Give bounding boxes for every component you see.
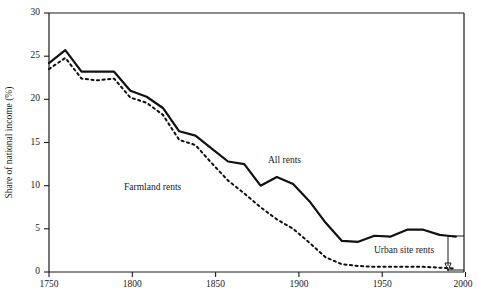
urban-site-rents-label: Urban site rents — [374, 245, 434, 255]
chart-figure: 0 5 10 15 20 25 30 1750 1800 1850 1900 1… — [0, 0, 478, 301]
y-tick-marks — [44, 13, 49, 272]
y-axis-title: Share of national income (%) — [4, 87, 15, 199]
x-tick-label-2000: 2000 — [454, 279, 473, 289]
y-tick-label-5: 5 — [35, 223, 40, 233]
y-tick-label-30: 30 — [31, 7, 41, 17]
x-tick-label-1750: 1750 — [40, 279, 59, 289]
y-tick-label-0: 0 — [35, 266, 40, 276]
y-tick-label-20: 20 — [31, 93, 41, 103]
all-rents-label: All rents — [268, 155, 301, 165]
x-tick-marks — [49, 272, 466, 277]
x-tick-label-1800: 1800 — [123, 279, 142, 289]
series-line-farmland-rents — [49, 58, 456, 269]
farmland-rents-label: Farmland rents — [124, 182, 182, 192]
y-tick-label-15: 15 — [31, 137, 41, 147]
x-tick-label-1950: 1950 — [373, 279, 392, 289]
y-tick-label-25: 25 — [31, 50, 41, 60]
y-tick-label-10: 10 — [31, 180, 41, 190]
urban-site-rents-arrow-group — [445, 236, 464, 271]
x-tick-label-1900: 1900 — [289, 279, 308, 289]
chart-plot-area: 0 5 10 15 20 25 30 1750 1800 1850 1900 1… — [0, 0, 478, 301]
x-tick-label-1850: 1850 — [206, 279, 225, 289]
